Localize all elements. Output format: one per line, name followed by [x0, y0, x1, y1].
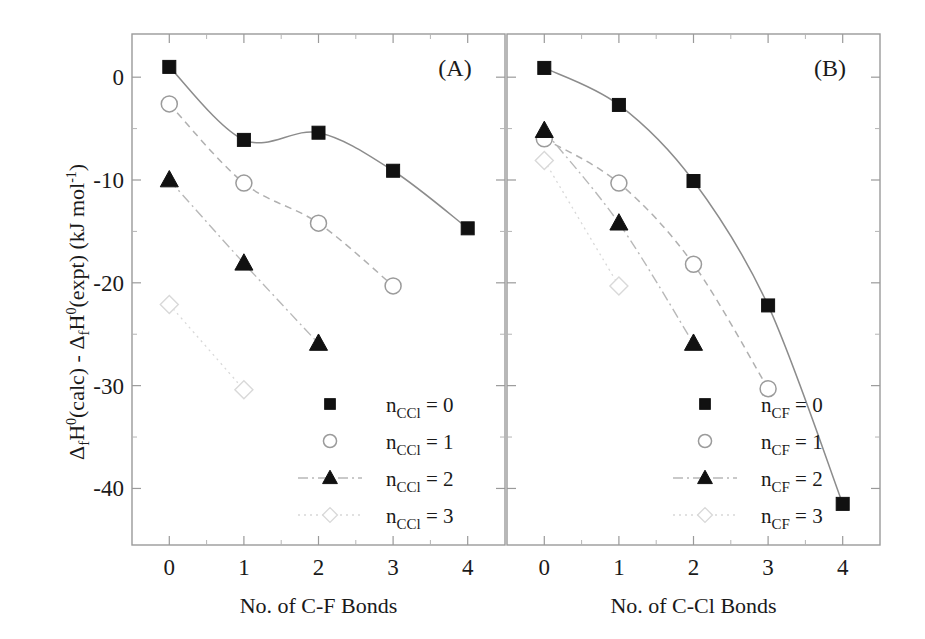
y-tick-label: -40	[93, 476, 124, 501]
legend-label: nCCl = 3	[386, 504, 454, 532]
legend-label: nCF = 2	[761, 467, 823, 495]
marker-filled-square	[461, 222, 474, 235]
legend-value: = 0	[421, 393, 454, 417]
y-title-h2: H	[64, 314, 89, 330]
legend-value: = 3	[421, 504, 454, 528]
y-title-delta-2: Δ	[64, 335, 89, 349]
x-tick-label: 4	[462, 555, 474, 580]
panel-label: (A)	[438, 55, 471, 81]
x-tick-label: 1	[613, 555, 625, 580]
legend-symbol-n: n	[761, 393, 772, 417]
x-tick-label: 1	[238, 555, 250, 580]
legend-symbol-n: n	[386, 430, 397, 454]
legend-subscript: CF	[772, 405, 790, 421]
y-tick-label: -20	[93, 271, 124, 296]
legend-value: = 2	[421, 467, 454, 491]
legend-value: = 1	[790, 430, 823, 454]
legend-symbol-n: n	[386, 504, 397, 528]
marker-open-circle	[311, 215, 327, 231]
chart-svg: ΔfH0(calc) - ΔfH0(expt) (kJ mol-1) 0-10-…	[0, 0, 925, 639]
marker-filled-square	[163, 60, 176, 73]
x-axis-title: No. of C-F Bonds	[240, 593, 398, 618]
y-title-sup-1: 0	[64, 418, 79, 425]
marker-open-circle	[161, 96, 177, 112]
marker-open-circle	[698, 434, 711, 447]
y-title-calc: (calc) -	[64, 350, 89, 418]
legend-subscript: CF	[772, 479, 790, 495]
figure-container: ΔfH0(calc) - ΔfH0(expt) (kJ mol-1) 0-10-…	[0, 0, 925, 639]
legend-label: nCF = 1	[761, 430, 823, 458]
y-title-delta-1: Δ	[64, 446, 89, 460]
legend-value: = 1	[421, 430, 454, 454]
y-title-h1: H	[64, 425, 89, 441]
marker-open-circle	[385, 278, 401, 294]
marker-filled-square	[700, 399, 711, 410]
y-tick-label: -10	[93, 168, 124, 193]
legend-subscript: CCl	[397, 442, 421, 458]
legend-subscript: CCl	[397, 516, 421, 532]
legend-symbol-n: n	[761, 504, 772, 528]
marker-filled-square	[312, 126, 325, 139]
marker-filled-square	[687, 175, 700, 188]
legend-value: = 2	[790, 467, 823, 491]
legend-symbol-n: n	[761, 430, 772, 454]
legend-subscript: CCl	[397, 479, 421, 495]
x-tick-label: 3	[387, 555, 399, 580]
marker-open-circle	[611, 175, 627, 191]
legend-value: = 3	[790, 504, 823, 528]
legend-subscript: CCl	[397, 405, 421, 421]
marker-filled-square	[612, 98, 625, 111]
marker-open-circle	[686, 256, 702, 272]
marker-filled-square	[237, 133, 250, 146]
y-tick-label: -30	[93, 374, 124, 399]
legend-value: = 0	[790, 393, 823, 417]
panel-label: (B)	[814, 55, 846, 81]
y-tick-label: 0	[113, 65, 125, 90]
x-tick-label: 0	[539, 555, 551, 580]
marker-filled-square	[538, 61, 551, 74]
legend-label: nCCl = 1	[386, 430, 454, 458]
x-tick-label: 3	[762, 555, 774, 580]
y-title-close: )	[64, 164, 89, 171]
legend-symbol-n: n	[386, 393, 397, 417]
x-tick-label: 2	[313, 555, 325, 580]
y-title-sup-2: 0	[64, 308, 79, 315]
figure-background	[0, 0, 925, 639]
marker-open-circle	[236, 175, 252, 191]
y-title-sup-3: -1	[64, 171, 79, 183]
legend-subscript: CF	[772, 442, 790, 458]
x-tick-label: 4	[837, 555, 849, 580]
legend-label: nCF = 3	[761, 504, 823, 532]
y-title-expt: (expt) (kJ mol	[64, 183, 89, 308]
legend-subscript: CF	[772, 516, 790, 532]
legend-symbol-n: n	[386, 467, 397, 491]
marker-filled-square	[325, 399, 336, 410]
x-tick-label: 0	[164, 555, 176, 580]
marker-filled-square	[762, 299, 775, 312]
x-tick-label: 2	[688, 555, 700, 580]
legend-symbol-n: n	[761, 467, 772, 491]
marker-open-circle	[323, 434, 336, 447]
marker-filled-square	[836, 497, 849, 510]
legend-label: nCF = 0	[761, 393, 823, 421]
legend-label: nCCl = 2	[386, 467, 454, 495]
marker-filled-square	[387, 164, 400, 177]
x-axis-title: No. of C-Cl Bonds	[610, 593, 776, 618]
legend-label: nCCl = 0	[386, 393, 454, 421]
